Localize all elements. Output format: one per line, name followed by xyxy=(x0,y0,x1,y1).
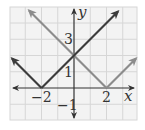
tick-label-y-neg1: −1 xyxy=(57,97,78,113)
x-axis-label: x xyxy=(124,87,133,105)
graph: y x −2 2 3 1 −1 xyxy=(0,0,145,130)
tick-label-x-2: 2 xyxy=(102,89,111,105)
tick-label-x-neg2: −2 xyxy=(31,89,52,105)
y-axis-label: y xyxy=(77,3,87,21)
tick-label-y-1: 1 xyxy=(64,64,73,80)
tick-label-y-3: 3 xyxy=(64,31,73,47)
